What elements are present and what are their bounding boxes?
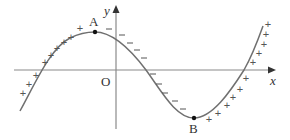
plus-icon: + <box>237 83 243 95</box>
y-axis <box>113 5 120 129</box>
plus-icon: + <box>265 18 271 30</box>
plus-icon: + <box>243 72 249 84</box>
point-a <box>93 30 97 34</box>
plus-icon: + <box>61 36 67 48</box>
plus-icon: + <box>54 42 60 54</box>
plus-signs-right: + + + + + + + + + + + <box>206 18 271 125</box>
plus-icon: + <box>215 107 221 119</box>
plus-icon: + <box>230 91 236 103</box>
plus-icon: + <box>68 31 74 43</box>
plus-icon: + <box>77 22 83 34</box>
point-b-label: B <box>189 121 198 136</box>
point-b <box>192 116 196 120</box>
plus-icon: + <box>33 69 39 81</box>
y-axis-arrow-icon <box>113 5 120 13</box>
plus-icon: + <box>26 78 32 90</box>
origin-label: O <box>101 74 110 89</box>
point-a-label: A <box>89 14 99 29</box>
function-graph: x y O A B + + + + + + + + + + + + + + <box>0 0 290 140</box>
y-axis-label: y <box>102 3 110 18</box>
plus-signs-left: + + + + + + + + + <box>20 22 83 99</box>
plus-icon: + <box>206 113 212 125</box>
x-axis-label: x <box>269 73 276 88</box>
